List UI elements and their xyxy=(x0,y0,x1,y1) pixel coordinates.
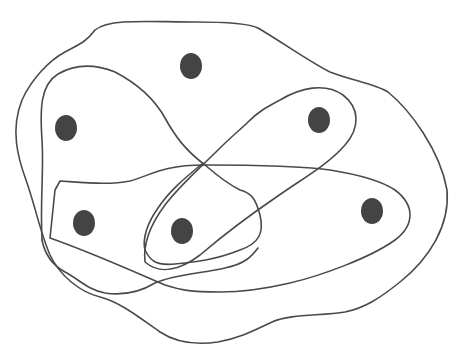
hypergraph-svg xyxy=(0,0,460,355)
vertex-dot-v3 xyxy=(308,107,330,133)
vertex-dot-v2 xyxy=(55,115,77,141)
vertex-dot-v6 xyxy=(361,198,383,224)
vertex-dot-v5 xyxy=(171,218,193,244)
hyperedge-e-left-bottom xyxy=(42,240,258,294)
vertex-dot-v4 xyxy=(73,210,95,236)
hypergraph-diagram xyxy=(0,0,460,355)
vertex-dot-v1 xyxy=(180,53,202,79)
cropped-caption-fragment xyxy=(0,0,460,6)
